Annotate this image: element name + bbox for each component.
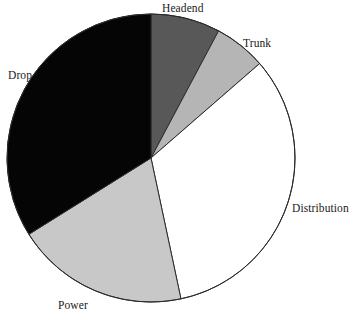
pie-label-drop: Drop [8,70,32,82]
pie-chart: Headend Trunk Distribution Power Drop [0,0,355,320]
pie-label-headend: Headend [162,3,204,15]
pie-label-power: Power [58,300,88,312]
pie-label-distribution: Distribution [292,203,349,215]
pie-chart-canvas [0,0,355,320]
pie-label-trunk: Trunk [243,38,271,50]
pie-slice-group [7,14,295,302]
